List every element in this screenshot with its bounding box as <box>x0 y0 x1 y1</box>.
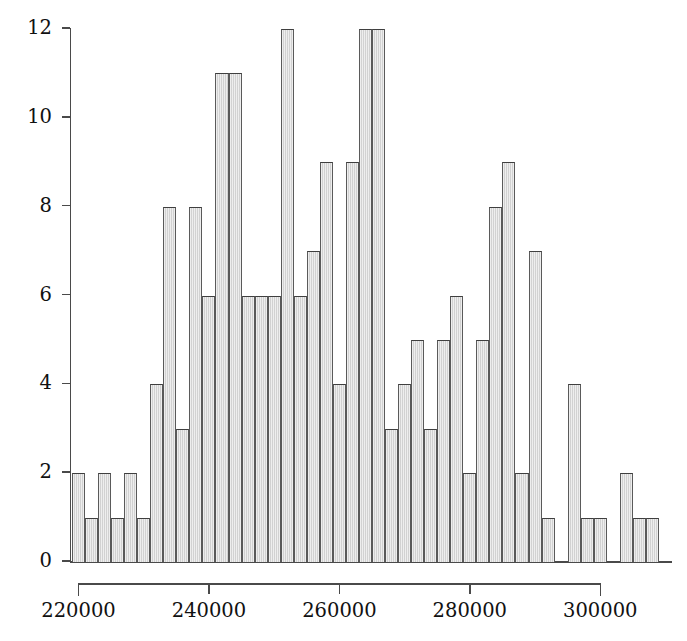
histogram-bar <box>450 296 463 563</box>
histogram-bar <box>372 29 385 562</box>
histogram-figure: 024681012 220000240000260000280000300000 <box>0 0 687 641</box>
histogram-bar <box>111 518 124 562</box>
histogram-bar <box>346 162 359 562</box>
histogram-bar <box>320 162 333 562</box>
histogram-bar <box>163 207 176 562</box>
histogram-bar <box>176 429 189 562</box>
y-axis-tick <box>62 383 70 384</box>
histogram-bar <box>124 473 137 562</box>
histogram-bar <box>542 518 555 562</box>
histogram-bar <box>515 473 528 562</box>
histogram-bar <box>633 518 646 562</box>
y-axis-tick-label: 10 <box>0 107 52 127</box>
x-axis-tick-label: 280000 <box>433 601 507 621</box>
y-axis-tick <box>62 116 70 117</box>
histogram-bar <box>294 296 307 563</box>
histogram-bar <box>581 518 594 562</box>
histogram-bar <box>189 207 202 562</box>
histogram-bar <box>437 340 450 562</box>
y-axis-tick-label: 0 <box>0 551 52 571</box>
y-axis-tick <box>62 294 70 295</box>
y-axis-tick <box>62 471 70 472</box>
histogram-bar <box>268 296 281 563</box>
histogram-bars <box>72 28 672 562</box>
histogram-bar <box>150 384 163 562</box>
histogram-bar <box>476 340 489 562</box>
histogram-bar <box>242 296 255 563</box>
histogram-bar <box>72 473 85 562</box>
histogram-bar <box>359 29 372 562</box>
y-axis-tick-label: 2 <box>0 462 52 482</box>
histogram-bar <box>333 384 346 562</box>
x-axis-tick <box>600 583 602 596</box>
histogram-bar <box>398 384 411 562</box>
histogram-bar <box>594 518 607 562</box>
histogram-bar <box>568 384 581 562</box>
histogram-bar <box>620 473 633 562</box>
histogram-bar <box>215 73 228 562</box>
histogram-bar <box>646 518 659 562</box>
y-axis-tick <box>62 27 70 28</box>
histogram-bar <box>307 251 320 562</box>
histogram-bar <box>502 162 515 562</box>
x-axis-tick <box>208 583 210 594</box>
histogram-bar <box>98 473 111 562</box>
x-axis-tick-label: 220000 <box>41 601 115 621</box>
y-axis-tick <box>62 205 70 206</box>
histogram-bar <box>255 296 268 563</box>
y-axis-tick-label: 8 <box>0 196 52 216</box>
x-axis-tick <box>339 583 341 594</box>
histogram-bar <box>85 518 98 562</box>
histogram-bar <box>463 473 476 562</box>
y-axis-tick-label: 6 <box>0 285 52 305</box>
plot-area <box>72 28 672 562</box>
x-axis-tick <box>469 583 471 594</box>
x-axis-tick <box>78 583 80 596</box>
x-axis-tick-label: 300000 <box>563 601 637 621</box>
histogram-bar <box>281 29 294 562</box>
y-axis-tick-label: 12 <box>0 18 52 38</box>
histogram-bar <box>385 429 398 562</box>
histogram-bar <box>137 518 150 562</box>
histogram-bar <box>202 296 215 563</box>
histogram-bar <box>229 73 242 562</box>
histogram-bar <box>424 429 437 562</box>
x-axis-bracket <box>0 583 687 599</box>
x-axis-tick-label: 260000 <box>302 601 376 621</box>
y-axis-tick-label: 4 <box>0 373 52 393</box>
histogram-bar <box>529 251 542 562</box>
x-axis-tick-label: 240000 <box>172 601 246 621</box>
x-axis-tick-labels: 220000240000260000280000300000 <box>0 601 687 631</box>
histogram-bar <box>489 207 502 562</box>
y-axis-tick <box>62 560 70 561</box>
histogram-bar <box>411 340 424 562</box>
